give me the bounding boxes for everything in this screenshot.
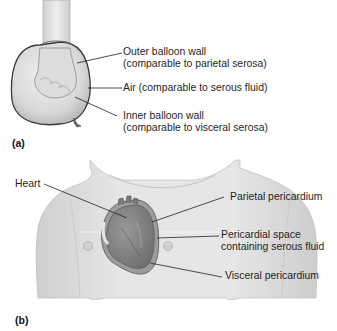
label-line: (comparable to visceral serosa) xyxy=(123,122,268,134)
label-line: (comparable to parietal serosa) xyxy=(123,58,267,70)
label-line: Heart xyxy=(15,178,40,190)
label-pericardial-space: Pericardial space containing serous flui… xyxy=(221,229,324,253)
label-line: Visceral pericardium xyxy=(225,270,319,282)
label-visceral-pericardium: Visceral pericardium xyxy=(225,270,319,282)
label-line: Inner balloon wall xyxy=(123,110,268,122)
panel-letter-a: (a) xyxy=(12,137,25,149)
label-outer-balloon-wall: Outer balloon wall (comparable to pariet… xyxy=(123,46,267,70)
label-inner-balloon-wall: Inner balloon wall (comparable to viscer… xyxy=(123,110,268,134)
label-heart: Heart xyxy=(15,178,40,190)
label-line: containing serous fluid xyxy=(221,241,324,253)
label-parietal-pericardium: Parietal pericardium xyxy=(230,191,322,203)
label-line: Parietal pericardium xyxy=(230,191,322,203)
balloon-illustration xyxy=(11,0,122,127)
label-line: Pericardial space xyxy=(221,229,324,241)
label-line: Air (comparable to serous fluid) xyxy=(123,82,267,94)
label-air: Air (comparable to serous fluid) xyxy=(123,82,267,94)
label-line: Outer balloon wall xyxy=(123,46,267,58)
panel-letter-b: (b) xyxy=(15,314,28,326)
